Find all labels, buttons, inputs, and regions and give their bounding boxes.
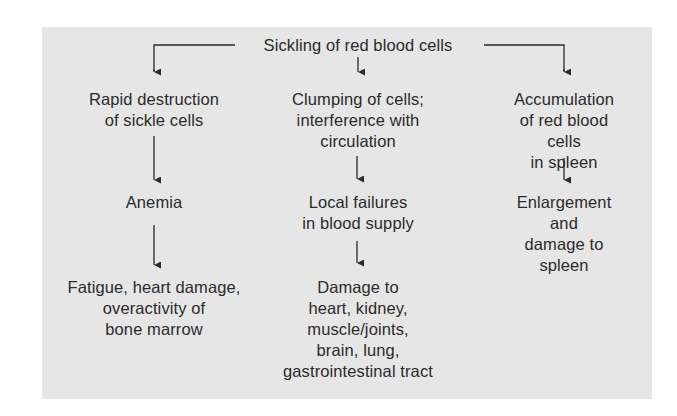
- node-fatigue-heart-damage: Fatigue, heart damage, overactivity of b…: [68, 277, 241, 340]
- node-organ-damage: Damage to heart, kidney, muscle/joints, …: [283, 277, 433, 382]
- node-anemia: Anemia: [126, 192, 183, 213]
- node-accumulation-in-spleen: Accumulation of red blood cells in splee…: [508, 89, 621, 173]
- node-local-failures: Local failures in blood supply: [302, 192, 414, 234]
- node-rapid-destruction: Rapid destruction of sickle cells: [89, 89, 219, 131]
- node-root-sickling: Sickling of red blood cells: [264, 35, 453, 56]
- node-clumping-of-cells: Clumping of cells; interference with cir…: [292, 89, 424, 152]
- node-enlargement-spleen: Enlargement and damage to spleen: [508, 192, 621, 276]
